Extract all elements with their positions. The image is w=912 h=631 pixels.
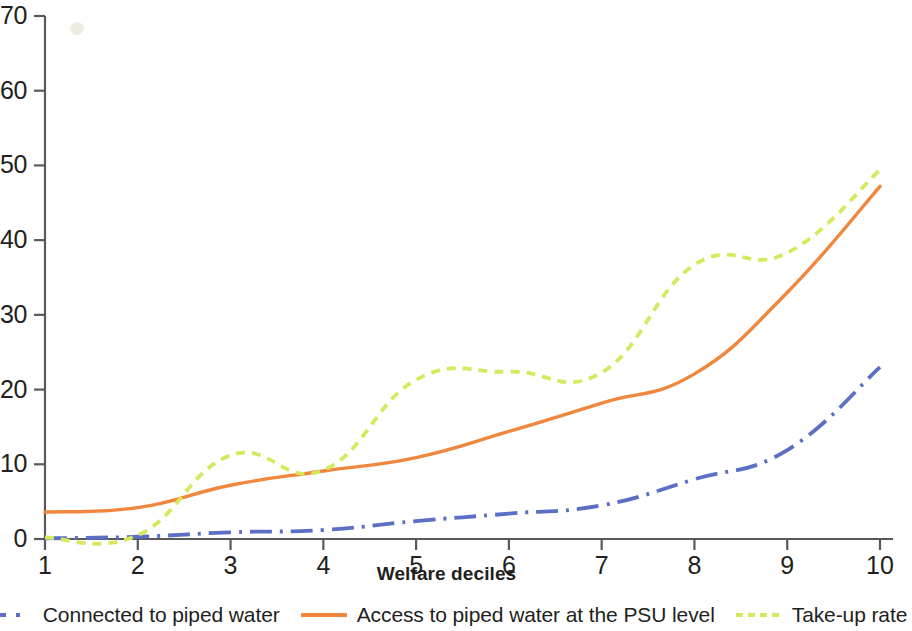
chart-line-series-2 bbox=[45, 186, 880, 512]
y-axis-tick-label: 50 bbox=[0, 152, 27, 177]
x-axis-title: Welfare deciles bbox=[0, 563, 893, 585]
legend-label-access-psu: Access to piped water at the PSU level bbox=[357, 603, 715, 627]
legend-label-connected: Connected to piped water bbox=[43, 603, 280, 627]
y-axis-tick-label: 0 bbox=[0, 526, 27, 551]
y-axis-tick-label: 70 bbox=[0, 3, 27, 28]
legend-item-connected[interactable]: Connected to piped water bbox=[0, 603, 280, 627]
legend-swatch-solid-icon bbox=[300, 608, 348, 622]
legend-swatch-dashdot-icon bbox=[0, 608, 34, 622]
y-axis-tick-label: 20 bbox=[0, 377, 27, 402]
y-axis-tick-label: 10 bbox=[0, 451, 27, 476]
chart-legend: Connected to piped water Access to piped… bbox=[0, 598, 893, 631]
legend-item-take-up-rate[interactable]: Take-up rate bbox=[735, 603, 908, 627]
legend-item-access-psu[interactable]: Access to piped water at the PSU level bbox=[300, 603, 715, 627]
legend-swatch-dashed-icon bbox=[735, 608, 783, 622]
chart-series-group bbox=[45, 170, 880, 544]
legend-label-take-up-rate: Take-up rate bbox=[792, 603, 908, 627]
chart-line-series-3 bbox=[45, 170, 880, 544]
y-axis-tick-label: 40 bbox=[0, 227, 27, 252]
y-axis-tick-label: 30 bbox=[0, 302, 27, 327]
chart-axes bbox=[34, 16, 893, 550]
y-axis-tick-label: 60 bbox=[0, 78, 27, 103]
